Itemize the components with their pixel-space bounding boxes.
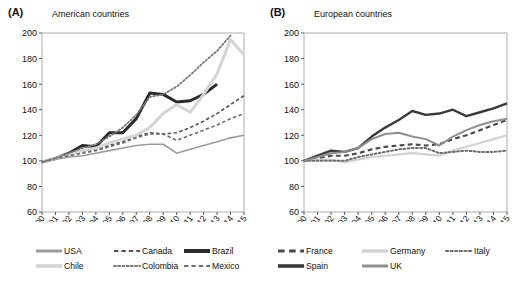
y-axis-tick-label: 100 [284,156,299,166]
y-axis-tick-label: 60 [289,207,299,217]
plot-area-a: 2001801601401201008060200020012002200320… [0,22,262,222]
legend-b: FranceGermanyItalySpainUK [262,241,525,281]
legend-label-chile: Chile [64,261,84,271]
y-axis-tick-label: 60 [27,207,37,217]
y-axis-tick-label: 160 [284,80,299,90]
legend-label-spain: Spain [306,261,328,271]
legend-label-mexico: Mexico [212,261,239,271]
legend-label-italy: Italy [474,246,490,256]
y-axis-tick-label: 120 [22,131,37,141]
legend-label-usa: USA [64,246,82,256]
legend-label-colombia: Colombia [142,261,179,271]
panel-letter-b: (B) [270,6,285,18]
y-axis-tick-label: 120 [284,131,299,141]
panel-title-b: European countries [314,9,392,19]
y-axis-tick-label: 200 [22,28,37,38]
y-axis-tick-label: 160 [22,80,37,90]
plot-area-b: 2001801601401201008060200020012002200320… [262,22,524,222]
legend-label-germany: Germany [390,246,426,256]
legend-label-canada: Canada [142,246,172,256]
panel-letter-a: (A) [8,6,23,18]
y-axis-tick-label: 180 [22,54,37,64]
line-chart-a: 2001801601401201008060200020012002200320… [0,22,262,222]
legend-label-brazil: Brazil [212,246,234,256]
y-axis-tick-label: 80 [27,182,37,192]
y-axis-tick-label: 140 [22,105,37,115]
panel-european-countries: (B) European countries 20018016014012010… [262,0,525,283]
y-axis-tick-label: 180 [284,54,299,64]
figure: (A) American countries 20018016014012010… [0,0,525,283]
y-axis-tick-label: 140 [284,105,299,115]
panel-american-countries: (A) American countries 20018016014012010… [0,0,262,283]
y-axis-tick-label: 200 [284,28,299,38]
legend-label-france: France [306,246,333,256]
legend-label-uk: UK [390,261,402,271]
y-axis-tick-label: 100 [22,156,37,166]
line-chart-b: 2001801601401201008060200020012002200320… [262,22,525,222]
y-axis-tick-label: 80 [289,182,299,192]
legend-a: USACanadaBrazilChileColombiaMexico [0,241,262,281]
panel-title-a: American countries [52,9,129,19]
